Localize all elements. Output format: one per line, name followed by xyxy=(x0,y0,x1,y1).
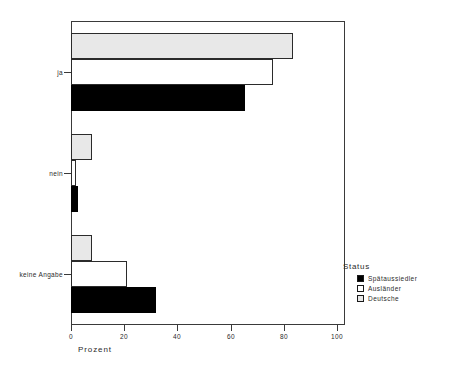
legend-swatch-icon xyxy=(357,285,364,292)
legend-item-black: Spätaussiedler xyxy=(343,275,449,282)
y-axis-category-label: keine Angabe xyxy=(19,271,63,278)
x-axis-title: Prozent xyxy=(78,345,112,354)
x-axis-tick-label: 20 xyxy=(120,333,128,340)
legend-item-label: Ausländer xyxy=(368,285,401,292)
x-axis-tick xyxy=(284,325,285,331)
x-axis-tick-label: 100 xyxy=(331,333,343,340)
y-axis-category-label: ja xyxy=(57,68,63,75)
y-axis-tick xyxy=(64,72,71,73)
y-axis-tick xyxy=(64,173,71,174)
x-axis-tick xyxy=(71,325,72,331)
bar-spataussiedler-2 xyxy=(71,287,156,313)
legend-item-gray: Deutsche xyxy=(343,295,449,302)
legend-item-label: Deutsche xyxy=(368,295,399,302)
x-axis-tick-label: 60 xyxy=(227,333,235,340)
bar-auslaender-2 xyxy=(71,261,127,287)
legend-items: SpätaussiedlerAusländerDeutsche xyxy=(343,275,449,302)
x-axis-tick xyxy=(337,325,338,331)
bar-auslaender-0 xyxy=(71,59,273,85)
bar-spataussiedler-0 xyxy=(71,85,245,111)
bar-spataussiedler-1 xyxy=(71,186,78,212)
bar-auslaender-1 xyxy=(71,160,76,186)
x-axis-tick xyxy=(231,325,232,331)
legend-item-white: Ausländer xyxy=(343,285,449,292)
legend-swatch-icon xyxy=(357,275,364,282)
y-axis-category-label: nein xyxy=(49,170,63,177)
x-axis-tick xyxy=(177,325,178,331)
legend: Status SpätaussiedlerAusländerDeutsche xyxy=(343,262,449,305)
x-axis-tick-label: 80 xyxy=(280,333,288,340)
bar-deutsche-0 xyxy=(71,33,293,59)
x-axis-tick xyxy=(124,325,125,331)
legend-swatch-icon xyxy=(357,295,364,302)
y-axis-tick xyxy=(64,274,71,275)
legend-title: Status xyxy=(343,262,449,271)
x-axis-tick-label: 0 xyxy=(69,333,73,340)
bar-deutsche-2 xyxy=(71,235,92,261)
bar-deutsche-1 xyxy=(71,134,92,160)
legend-item-label: Spätaussiedler xyxy=(368,275,417,282)
bar-chart: janeinkeine Angabe020406080100 Prozent S… xyxy=(0,0,451,371)
x-axis-tick-label: 40 xyxy=(173,333,181,340)
